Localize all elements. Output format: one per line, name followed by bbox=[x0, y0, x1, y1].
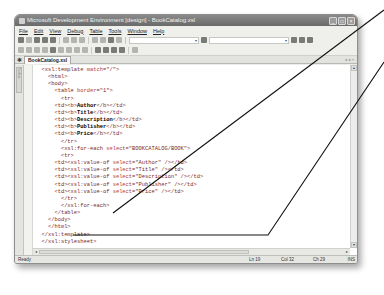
open-file-icon[interactable] bbox=[34, 37, 40, 43]
code-line[interactable]: <tr> bbox=[35, 96, 357, 103]
maximize-button[interactable]: □ bbox=[338, 17, 346, 25]
xml-tag: <body> bbox=[48, 81, 67, 87]
code-line[interactable]: <body> bbox=[35, 81, 357, 88]
text-content: Price bbox=[77, 131, 93, 137]
menu-file[interactable]: File bbox=[19, 28, 28, 34]
toolbar-separator bbox=[88, 37, 89, 44]
code-line[interactable]: <tr> bbox=[35, 153, 357, 160]
code-line[interactable]: </table> bbox=[35, 210, 357, 217]
text-content: Description bbox=[77, 117, 113, 123]
xml-attribute: select bbox=[106, 146, 125, 152]
code-line[interactable]: </xsl:stylesheet> bbox=[35, 239, 357, 246]
menu-help[interactable]: Help bbox=[153, 28, 164, 34]
status-bar: Ready Ln 19 Col 32 Ch 29 INS bbox=[15, 255, 357, 263]
horizontal-scroll-thumb[interactable] bbox=[39, 250, 249, 254]
xml-tag: <td><xsl:value-of bbox=[54, 174, 112, 180]
horizontal-scrollbar[interactable]: ◂ ▸ bbox=[33, 248, 350, 255]
display-object-members-icon[interactable] bbox=[18, 47, 24, 53]
increase-indent-icon[interactable] bbox=[82, 47, 88, 53]
menu-table[interactable]: Table bbox=[89, 28, 102, 34]
code-line[interactable]: </tr> bbox=[35, 139, 357, 146]
next-bookmark-icon[interactable] bbox=[103, 47, 109, 53]
toolbox-tab[interactable]: Toolbox bbox=[16, 67, 22, 93]
menu-edit[interactable]: Edit bbox=[34, 28, 43, 34]
code-line[interactable]: </html> bbox=[35, 224, 357, 231]
save-all-icon[interactable] bbox=[50, 37, 56, 43]
menu-view[interactable]: View bbox=[49, 28, 61, 34]
solution-explorer-icon[interactable] bbox=[291, 37, 297, 43]
code-line[interactable]: <td><b>Title</b></td> bbox=[35, 110, 357, 117]
xml-attribute: select bbox=[113, 174, 132, 180]
xml-tag: <xsl:template bbox=[41, 67, 86, 73]
decrease-indent-icon[interactable] bbox=[74, 47, 80, 53]
toolbar-options-icon[interactable] bbox=[132, 47, 138, 53]
code-line[interactable]: </tr> bbox=[35, 196, 357, 203]
code-line[interactable]: <td><b>Author</b></td> bbox=[35, 103, 357, 110]
start-icon[interactable] bbox=[108, 37, 114, 43]
tab-navigation-controls[interactable]: ◂ ▸ × bbox=[345, 57, 357, 62]
code-line[interactable]: <table border="1"> bbox=[35, 88, 357, 95]
code-line[interactable]: </xsl:for-each> bbox=[35, 203, 357, 210]
toolbar-separator bbox=[125, 37, 126, 44]
xml-tag: </b></td> bbox=[93, 131, 122, 137]
vertical-scrollbar[interactable]: ▴ ▾ bbox=[350, 65, 357, 248]
toolbox-icon[interactable] bbox=[307, 37, 313, 43]
app-icon bbox=[19, 18, 25, 24]
scroll-up-arrow[interactable]: ▴ bbox=[351, 65, 357, 71]
solution-config-combo[interactable]: ▾ bbox=[129, 37, 199, 44]
code-line[interactable]: <xsl:template match="/"> bbox=[35, 67, 357, 74]
cut-icon[interactable] bbox=[63, 37, 69, 43]
code-line[interactable]: <td><xsl:value-of select="Price" /></td> bbox=[35, 189, 357, 196]
whitespace-icon[interactable] bbox=[66, 47, 72, 53]
find-combo[interactable]: ▾ bbox=[209, 37, 289, 44]
toggle-bookmark-icon[interactable] bbox=[95, 47, 101, 53]
undo-icon[interactable] bbox=[92, 37, 98, 43]
xml-tag: </tr> bbox=[61, 196, 77, 202]
scroll-down-arrow[interactable]: ▾ bbox=[351, 242, 357, 248]
clear-bookmarks-icon[interactable] bbox=[119, 47, 125, 53]
paste-icon[interactable] bbox=[79, 37, 85, 43]
xml-tag: <tr> bbox=[61, 96, 74, 102]
menu-window[interactable]: Window bbox=[127, 28, 147, 34]
xml-tag: </xsl:for-each> bbox=[61, 203, 110, 209]
code-line[interactable]: </xsl:template> bbox=[35, 232, 357, 239]
minimize-button[interactable]: _ bbox=[329, 17, 337, 25]
configuration-icon[interactable] bbox=[116, 37, 122, 43]
redo-icon[interactable] bbox=[100, 37, 106, 43]
add-item-icon[interactable] bbox=[26, 37, 32, 43]
quick-info-icon[interactable] bbox=[34, 47, 40, 53]
code-editor[interactable]: <xsl:template match="/"> <html> <body> <… bbox=[33, 65, 357, 255]
toolbar-separator bbox=[59, 37, 60, 44]
menu-tools[interactable]: Tools bbox=[109, 28, 122, 34]
xml-tag: </xsl:stylesheet> bbox=[41, 239, 96, 245]
find-icon[interactable] bbox=[201, 37, 207, 43]
code-line[interactable]: <td><xsl:value-of select="Title" /></td> bbox=[35, 167, 357, 174]
code-line[interactable]: <td><xsl:value-of select="Description" /… bbox=[35, 174, 357, 181]
xml-tag: </html> bbox=[48, 224, 71, 230]
code-line[interactable]: <td><xsl:value-of select="Publisher" /><… bbox=[35, 182, 357, 189]
properties-icon[interactable] bbox=[299, 37, 305, 43]
menu-debug[interactable]: Debug bbox=[67, 28, 83, 34]
editor-area: Toolbox <xsl:template match="/"> <html> … bbox=[15, 65, 357, 255]
code-line[interactable]: <td><b>Price</b></td> bbox=[35, 131, 357, 138]
save-icon[interactable] bbox=[42, 37, 48, 43]
code-content[interactable]: <xsl:template match="/"> <html> <body> <… bbox=[33, 65, 357, 246]
toolbox-pin-icon[interactable]: ✱ bbox=[15, 56, 24, 63]
code-line[interactable]: <html> bbox=[35, 74, 357, 81]
previous-bookmark-icon[interactable] bbox=[111, 47, 117, 53]
code-line[interactable]: <td><b>Description</b></td> bbox=[35, 117, 357, 124]
close-button[interactable]: × bbox=[347, 17, 355, 25]
window-title: Microsoft Development Environment [desig… bbox=[27, 15, 329, 26]
xml-tag: </body> bbox=[48, 217, 71, 223]
code-line[interactable]: </body> bbox=[35, 217, 357, 224]
code-line[interactable]: <xsl:for-each select="BOOKCATALOG/BOOK"> bbox=[35, 146, 357, 153]
code-line[interactable]: <td><b>Publisher</b></td> bbox=[35, 124, 357, 131]
tab-bookcatalog-xsl[interactable]: BookCatalog.xsl bbox=[24, 56, 71, 64]
parameter-info-icon[interactable] bbox=[26, 47, 32, 53]
code-line[interactable]: <td><xsl:value-of select="Author" /></td… bbox=[35, 160, 357, 167]
indent-icon[interactable] bbox=[50, 47, 56, 53]
complete-word-icon[interactable] bbox=[42, 47, 48, 53]
copy-icon[interactable] bbox=[71, 37, 77, 43]
outdent-icon[interactable] bbox=[58, 47, 64, 53]
new-project-icon[interactable] bbox=[18, 37, 24, 43]
